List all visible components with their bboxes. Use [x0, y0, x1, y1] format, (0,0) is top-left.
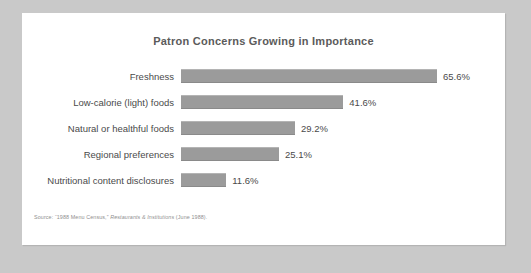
- bar-chart-plot: Freshness 65.6% Low-calorie (light) food…: [22, 63, 505, 193]
- source-prefix: Source: “1988 Menu Census,”: [34, 214, 110, 220]
- bar-row: Regional preferences 25.1%: [22, 141, 505, 167]
- bar-value-label: 11.6%: [226, 175, 258, 186]
- chart-card: Patron Concerns Growing in Importance Fr…: [22, 13, 505, 245]
- bar-low-calorie-light-foods: [181, 95, 343, 109]
- bar-row: Natural or healthful foods 29.2%: [22, 115, 505, 141]
- bar-track: 41.6%: [181, 89, 505, 115]
- bar-track: 25.1%: [181, 141, 505, 167]
- bar-value-label: 41.6%: [343, 97, 376, 108]
- bar-category-label: Nutritional content disclosures: [22, 175, 181, 186]
- bar-category-label: Natural or healthful foods: [22, 123, 181, 134]
- bar-category-label: Freshness: [22, 71, 181, 82]
- bar-row: Nutritional content disclosures 11.6%: [22, 167, 505, 193]
- source-publication: Restaurants & Institutions: [110, 214, 174, 220]
- bar-regional-preferences: [181, 147, 279, 161]
- bar-value-label: 65.6%: [437, 71, 470, 82]
- source-suffix: (June 1988).: [174, 214, 207, 220]
- bar-natural-or-healthful-foods: [181, 121, 295, 135]
- source-note: Source: “1988 Menu Census,” Restaurants …: [34, 214, 207, 220]
- chart-title: Patron Concerns Growing in Importance: [22, 35, 505, 47]
- bar-category-label: Regional preferences: [22, 149, 181, 160]
- bar-track: 11.6%: [181, 167, 505, 193]
- bar-row: Freshness 65.6%: [22, 63, 505, 89]
- bar-value-label: 29.2%: [295, 123, 328, 134]
- bar-nutritional-content-disclosures: [181, 173, 226, 187]
- bar-freshness: [181, 69, 437, 83]
- bar-category-label: Low-calorie (light) foods: [22, 97, 181, 108]
- bar-value-label: 25.1%: [279, 149, 312, 160]
- bar-track: 29.2%: [181, 115, 505, 141]
- bar-row: Low-calorie (light) foods 41.6%: [22, 89, 505, 115]
- bar-track: 65.6%: [181, 63, 505, 89]
- page-root: Patron Concerns Growing in Importance Fr…: [0, 0, 531, 273]
